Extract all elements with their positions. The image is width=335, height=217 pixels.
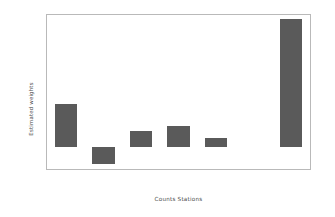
x-tick-mark <box>291 169 292 170</box>
chart-figure: Estimated weights -0.10.00.10.20.30.40.5… <box>0 0 335 217</box>
bar <box>167 126 190 147</box>
x-axis-label: Counts Stations <box>46 196 311 202</box>
bar <box>280 19 303 147</box>
x-tick-mark <box>140 169 141 170</box>
y-tick-mark <box>46 81 47 82</box>
bar <box>55 104 78 147</box>
x-tick-mark <box>103 169 104 170</box>
y-tick-mark <box>46 103 47 104</box>
bar <box>92 147 115 164</box>
bar <box>130 131 153 148</box>
bar <box>205 138 228 147</box>
y-tick-mark <box>46 15 47 16</box>
x-tick-mark <box>178 169 179 170</box>
y-tick-mark <box>46 169 47 170</box>
x-tick-mark <box>253 169 254 170</box>
y-axis-label: Estimated weights <box>28 82 34 135</box>
y-tick-mark <box>46 59 47 60</box>
x-tick-mark <box>216 169 217 170</box>
y-tick-mark <box>46 147 47 148</box>
x-tick-mark <box>65 169 66 170</box>
plot-area: -0.10.00.10.20.30.40.50.6 Lane1_28Lane2_… <box>46 14 311 170</box>
y-tick-mark <box>46 37 47 38</box>
y-tick-mark <box>46 125 47 126</box>
